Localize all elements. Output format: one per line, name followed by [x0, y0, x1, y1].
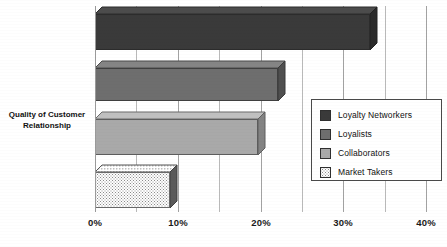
legend-swatch-icon-collaborators	[320, 148, 331, 159]
legend-swatch-icon-market-takers	[320, 167, 331, 178]
legend-item-market-takers: Market Takers	[320, 163, 441, 181]
legend-swatch-icon-loyalty-networkers	[320, 110, 331, 121]
bar-loyalty-networkers	[95, 14, 370, 50]
legend-item-loyalty-networkers: Loyalty Networkers	[320, 106, 441, 124]
legend: Loyalty Networkers Loyalists Collaborato…	[311, 99, 442, 181]
y-axis-title: Quality of Customer Relationship	[4, 110, 90, 132]
bar-loyalists	[95, 68, 278, 101]
bar-front-face-1	[95, 14, 370, 50]
x-tick-label-20: 20%	[251, 217, 271, 228]
legend-swatch-icon-loyalists	[320, 129, 331, 140]
legend-label-loyalists: Loyalists	[338, 129, 372, 139]
bar-front-face-2	[95, 68, 278, 101]
bar-collaborators	[95, 119, 258, 155]
bar-front-face-4	[95, 172, 170, 208]
legend-label-loyalty-networkers: Loyalty Networkers	[338, 110, 412, 120]
legend-label-collaborators: Collaborators	[338, 148, 390, 158]
x-tick-label-30: 30%	[333, 217, 353, 228]
bar-front-face-3	[95, 119, 258, 155]
legend-item-collaborators: Collaborators	[320, 144, 441, 162]
bar-market-takers	[95, 172, 170, 208]
bar-chart: Quality of Customer Relationship	[0, 0, 447, 247]
y-axis-title-line-2: Relationship	[4, 121, 90, 132]
x-tick-label-40: 40%	[416, 217, 436, 228]
y-axis-line	[95, 6, 96, 212]
y-axis-title-line-1: Quality of Customer	[4, 110, 90, 121]
x-tick-label-10: 10%	[168, 217, 188, 228]
legend-label-market-takers: Market Takers	[338, 167, 393, 177]
x-tick-label-0: 0%	[88, 217, 102, 228]
legend-item-loyalists: Loyalists	[320, 125, 441, 143]
